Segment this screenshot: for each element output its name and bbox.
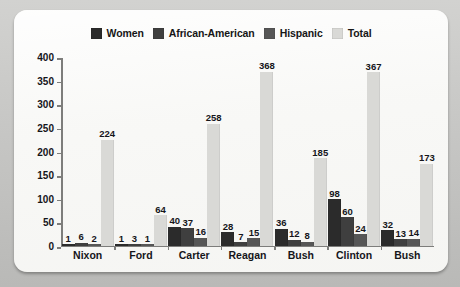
x-axis-label-5: Clinton xyxy=(327,250,380,261)
plot-area: 400350300250200150100500 162224131644037… xyxy=(61,58,434,247)
y-tick-label: 200 xyxy=(37,148,54,158)
bar-value-label: 14 xyxy=(409,228,420,238)
x-axis-group-separator xyxy=(274,246,276,250)
y-tick-label: 150 xyxy=(37,171,54,181)
bar-group: 403716258 xyxy=(168,59,221,246)
bar-column: 13 xyxy=(394,59,407,246)
bar-value-label: 64 xyxy=(155,205,166,215)
bar[interactable] xyxy=(75,243,88,246)
bar-value-label: 6 xyxy=(78,232,83,242)
bar-group: 28715368 xyxy=(221,59,274,246)
bar-value-label: 36 xyxy=(276,218,287,228)
bar-column: 368 xyxy=(260,59,273,246)
bar[interactable] xyxy=(275,229,288,246)
bar[interactable] xyxy=(88,244,101,246)
x-axis-labels: NixonFordCarterReaganBushClintonBush xyxy=(61,250,434,261)
bar-value-label: 8 xyxy=(305,231,310,241)
x-axis-group-separator xyxy=(381,246,383,250)
bar-column: 6 xyxy=(75,59,88,246)
bar-value-label: 7 xyxy=(238,232,243,242)
bar-column: 1 xyxy=(141,59,154,246)
bar-value-label: 13 xyxy=(396,229,407,239)
bar-value-label: 258 xyxy=(206,113,222,123)
bar[interactable] xyxy=(381,230,394,245)
legend-label: Women xyxy=(107,28,144,39)
bar[interactable] xyxy=(260,72,273,246)
y-tick-label: 400 xyxy=(37,53,54,63)
bar[interactable] xyxy=(341,217,354,245)
bar-column: 185 xyxy=(314,59,327,246)
x-axis-label-1: Ford xyxy=(114,250,167,261)
bar-value-label: 12 xyxy=(289,229,300,239)
chart-card: WomenAfrican-AmericanHispanicTotal 40035… xyxy=(14,10,448,272)
bar[interactable] xyxy=(128,244,141,246)
bar-column: 367 xyxy=(367,59,380,246)
bar-column: 173 xyxy=(420,59,433,246)
legend-item-hispanic[interactable]: Hispanic xyxy=(264,28,323,39)
bar[interactable] xyxy=(168,227,181,246)
y-tick-label: 0 xyxy=(48,242,54,252)
bar-value-label: 3 xyxy=(132,234,137,244)
bar-column: 98 xyxy=(328,59,341,246)
legend-item-total[interactable]: Total xyxy=(332,28,372,39)
bar-value-label: 40 xyxy=(169,216,180,226)
bar-column: 37 xyxy=(181,59,194,246)
x-axis-group-separator xyxy=(168,246,170,250)
bar[interactable] xyxy=(181,228,194,245)
bar[interactable] xyxy=(420,164,433,246)
bar[interactable] xyxy=(115,244,128,246)
bar[interactable] xyxy=(301,242,314,246)
x-axis-label-2: Carter xyxy=(168,250,221,261)
bar-value-label: 24 xyxy=(355,224,366,234)
legend-swatch-icon xyxy=(91,28,102,39)
bar[interactable] xyxy=(367,72,380,245)
bar[interactable] xyxy=(101,140,114,246)
legend-label: Hispanic xyxy=(280,28,323,39)
bar-value-label: 28 xyxy=(223,222,234,232)
legend-item-african-american[interactable]: African-American xyxy=(153,28,255,39)
bar[interactable] xyxy=(247,238,260,245)
bar[interactable] xyxy=(354,234,367,245)
bar-column: 15 xyxy=(247,59,260,246)
y-tick-label: 100 xyxy=(37,195,54,205)
x-axis-label-4: Bush xyxy=(274,250,327,261)
y-tick-label: 350 xyxy=(37,77,54,87)
bar[interactable] xyxy=(407,239,420,246)
x-axis-group-separator xyxy=(221,246,223,250)
bar-value-label: 367 xyxy=(366,62,382,72)
bar[interactable] xyxy=(288,240,301,246)
legend-item-women[interactable]: Women xyxy=(91,28,144,39)
bar[interactable] xyxy=(394,239,407,245)
bar[interactable] xyxy=(221,232,234,245)
bar[interactable] xyxy=(207,124,220,246)
bar-value-label: 368 xyxy=(259,61,275,71)
bar-column: 12 xyxy=(288,59,301,246)
bar[interactable] xyxy=(154,215,167,245)
bar[interactable] xyxy=(141,244,154,246)
bar-column: 2 xyxy=(88,59,101,246)
bar-column: 40 xyxy=(168,59,181,246)
y-tick-label: 300 xyxy=(37,100,54,110)
bar-value-label: 15 xyxy=(249,228,260,238)
bar-value-label: 37 xyxy=(182,218,193,228)
bar[interactable] xyxy=(234,242,247,245)
bar[interactable] xyxy=(328,199,341,245)
legend-label: African-American xyxy=(169,28,255,39)
x-axis-label-6: Bush xyxy=(381,250,434,261)
bar-group: 321314173 xyxy=(381,59,434,246)
bar-value-label: 173 xyxy=(419,153,435,163)
bar[interactable] xyxy=(194,238,207,246)
bar-value-label: 32 xyxy=(383,220,394,230)
legend-swatch-icon xyxy=(332,28,343,39)
x-axis-label-0: Nixon xyxy=(61,250,114,261)
bar-value-label: 16 xyxy=(195,227,206,237)
legend-swatch-icon xyxy=(153,28,164,39)
bar[interactable] xyxy=(314,158,327,245)
bar[interactable] xyxy=(62,244,75,246)
y-tick-label: 250 xyxy=(37,124,54,134)
legend-swatch-icon xyxy=(264,28,275,39)
bar-column: 1 xyxy=(115,59,128,246)
bar-group: 36128185 xyxy=(274,59,327,246)
bar-column: 36 xyxy=(275,59,288,246)
bar-column: 3 xyxy=(128,59,141,246)
